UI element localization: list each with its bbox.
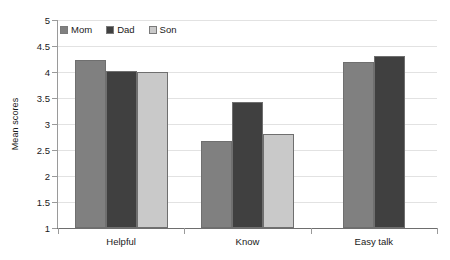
bar-son-helpful (137, 72, 168, 228)
y-axis-tick-labels: 54.543.532.521.51 (0, 0, 50, 260)
legend-label: Mom (71, 24, 92, 35)
x-axis-category-label: Know (236, 236, 260, 247)
legend-item-dad: Dad (106, 24, 134, 35)
legend-swatch-icon (149, 26, 157, 34)
y-axis-tick-label: 5 (4, 15, 50, 26)
legend-item-son: Son (149, 24, 177, 35)
bar-son-know (263, 134, 294, 228)
legend-item-mom: Mom (60, 24, 92, 35)
grid-line (58, 46, 437, 47)
y-axis-tick-label: 4 (4, 67, 50, 78)
bar-mom-easy-talk (343, 62, 374, 228)
x-axis-tick-mark (311, 228, 312, 234)
legend-swatch-icon (106, 26, 114, 34)
chart-legend: MomDadSon (60, 24, 176, 35)
x-axis-line (57, 228, 438, 229)
legend-label: Son (160, 24, 177, 35)
y-axis-tick-label: 2.5 (4, 145, 50, 156)
bar-chart: Mean scores 54.543.532.521.51 HelpfulKno… (0, 0, 450, 260)
y-axis-tick-label: 1 (4, 223, 50, 234)
x-axis-category-label: Helpful (106, 236, 136, 247)
plot-area (58, 20, 437, 228)
y-axis-tick-label: 1.5 (4, 197, 50, 208)
x-axis-category-label: Easy talk (355, 236, 394, 247)
legend-label: Dad (117, 24, 134, 35)
legend-swatch-icon (60, 26, 68, 34)
bar-dad-helpful (106, 71, 137, 228)
y-axis-tick-label: 3 (4, 119, 50, 130)
bar-mom-know (201, 141, 232, 228)
x-axis-tick-mark (437, 228, 438, 234)
y-axis-tick-label: 3.5 (4, 93, 50, 104)
y-axis-tick-label: 2 (4, 171, 50, 182)
bar-dad-easy-talk (374, 56, 405, 228)
bar-dad-know (232, 102, 263, 228)
bar-mom-helpful (75, 60, 106, 228)
x-axis-tick-mark (184, 228, 185, 234)
x-axis-tick-mark (58, 228, 59, 234)
grid-line (58, 20, 437, 21)
y-axis-tick-label: 4.5 (4, 41, 50, 52)
